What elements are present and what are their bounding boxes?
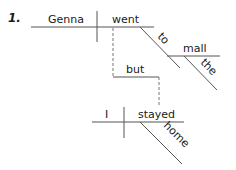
object-mall: mall	[183, 42, 207, 55]
adverb-home: home	[161, 119, 192, 150]
modifier-the: the	[198, 56, 220, 78]
clause2-subject: I	[105, 108, 108, 121]
conjunction-but: but	[126, 63, 145, 76]
sentence-diagram: 1. Genna went to mall the but I stayed h…	[0, 0, 236, 170]
clause1-verb: went	[112, 13, 140, 26]
item-number: 1.	[8, 11, 21, 25]
clause1-subject: Genna	[48, 13, 84, 26]
